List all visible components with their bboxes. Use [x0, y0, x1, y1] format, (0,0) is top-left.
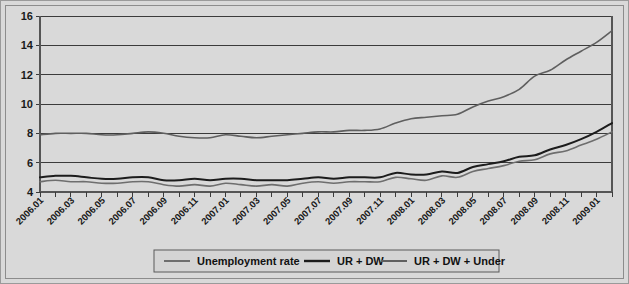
x-tick-label: 2007.05 [261, 194, 294, 227]
x-tick-label: 2008.11 [539, 194, 571, 226]
y-tick-label: 6 [27, 157, 33, 169]
series-line-2 [40, 31, 612, 138]
y-axis-labels: 46810121416 [21, 10, 34, 198]
x-tick-label: 2006.01 [13, 194, 46, 227]
x-axis-ticks [40, 192, 612, 197]
chart-legend: Unemployment rateUR + DWUR + DW + Under [154, 250, 506, 272]
x-axis-labels: 2006.012006.032006.052006.072006.092006.… [13, 194, 602, 227]
plot-area: 46810121416 2006.012006.032006.052006.07… [6, 6, 623, 278]
x-tick-label: 2006.07 [106, 195, 138, 227]
x-tick-label: 2006.05 [75, 194, 108, 227]
x-tick-label: 2007.07 [292, 195, 324, 227]
x-tick-label: 2007.03 [230, 195, 262, 227]
y-tick-label: 8 [27, 127, 33, 139]
x-tick-label: 2007.01 [199, 194, 232, 227]
x-tick-label: 2008.05 [446, 194, 479, 227]
legend-label-2: UR + DW + Under [414, 255, 506, 267]
y-tick-label: 12 [21, 69, 33, 81]
x-tick-label: 2009.01 [570, 194, 603, 227]
x-tick-label: 2008.09 [508, 195, 540, 227]
y-tick-label: 14 [21, 39, 34, 51]
x-tick-label: 2006.03 [44, 195, 76, 227]
x-tick-label: 2006.09 [137, 195, 169, 227]
y-tick-label: 10 [21, 98, 33, 110]
x-tick-label: 2008.07 [477, 195, 509, 227]
legend-label-1: UR + DW [337, 255, 384, 267]
chart-frame: 46810121416 2006.012006.032006.052006.07… [5, 5, 624, 279]
x-tick-label: 2007.09 [323, 195, 355, 227]
x-tick-label: 2008.01 [384, 194, 417, 227]
x-tick-label: 2006.11 [168, 194, 200, 226]
legend-label-0: Unemployment rate [197, 255, 300, 267]
gridlines [36, 16, 612, 192]
x-tick-label: 2008.03 [415, 195, 447, 227]
line-chart-svg: 46810121416 2006.012006.032006.052006.07… [6, 6, 627, 282]
y-tick-label: 4 [27, 186, 34, 198]
x-tick-label: 2007.11 [354, 194, 386, 226]
y-tick-label: 16 [21, 10, 33, 22]
chart-figure: 46810121416 2006.012006.032006.052006.07… [0, 0, 629, 284]
